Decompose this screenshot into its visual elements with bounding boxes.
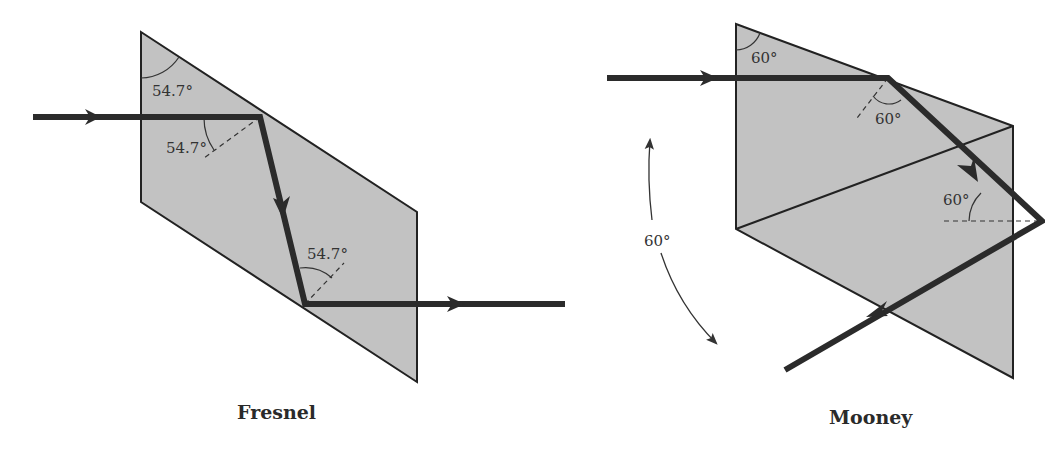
- fresnel-title: Fresnel: [237, 401, 316, 423]
- mooney-angle-label-1: 60°: [875, 110, 902, 128]
- fresnel-rhomb-group: 54.7° 54.7° 54.7° Fresnel: [33, 32, 565, 423]
- fresnel-angle-label-top: 54.7°: [152, 82, 193, 100]
- optics-diagram: 54.7° 54.7° 54.7° Fresnel 60° 60° 60°: [0, 0, 1045, 459]
- rotation-arc-upper: [649, 140, 652, 220]
- mooney-angle-label-2: 60°: [943, 191, 970, 209]
- mooney-prism-group: 60° 60° 60° 60° Mooney: [607, 24, 1042, 428]
- fresnel-angle-label-2: 54.7°: [307, 245, 348, 263]
- rotation-arc-lower: [661, 253, 716, 343]
- fresnel-angle-label-1: 54.7°: [166, 139, 207, 157]
- rotation-angle-label: 60°: [644, 232, 671, 250]
- mooney-angle-label-top: 60°: [751, 49, 778, 67]
- mooney-title: Mooney: [829, 406, 913, 428]
